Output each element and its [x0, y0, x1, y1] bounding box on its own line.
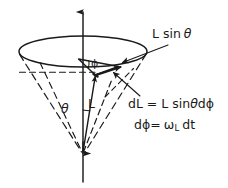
- label-l-sin-theta-text: L sin: [152, 26, 181, 41]
- label-dphi-dt: dt: [182, 117, 195, 132]
- label-dl-phi: ϕ: [206, 96, 214, 111]
- precession-cone: [20, 55, 82, 153]
- label-dphi-omega: ω: [164, 117, 174, 132]
- label-dl-theta: θ: [190, 96, 198, 111]
- angular-momentum-vector: [83, 77, 95, 153]
- precession-diagram: L sinθ dL = L sinθdϕ dϕ=ωLdt θ L ϕ: [0, 0, 228, 188]
- label-phi-angle: ϕ: [91, 58, 98, 69]
- label-dphi-symbol: ϕ: [142, 117, 150, 132]
- label-dphi-equation: dϕ=ωLdt: [134, 119, 195, 133]
- label-l-sin-theta: L sinθ: [152, 28, 192, 41]
- dl-vector-arrow: [96, 67, 121, 75]
- label-theta-angle: θ: [61, 103, 69, 116]
- label-dphi-lhs: d: [134, 117, 142, 132]
- phi-angle-arc: [88, 61, 89, 67]
- label-l-sin-theta-symbol: θ: [184, 26, 192, 41]
- label-dphi-eq: =: [150, 117, 160, 132]
- label-dl-equation: dL = L sinθdϕ: [128, 98, 214, 111]
- label-angular-momentum: L: [88, 98, 95, 111]
- label-dphi-omega-subscript: L: [174, 123, 179, 133]
- diagram-canvas: [0, 0, 228, 188]
- label-dl-lhs: dL = L sin: [128, 96, 190, 111]
- leader-cross-dashed: [105, 69, 134, 98]
- label-dl-rhs: d: [198, 96, 206, 111]
